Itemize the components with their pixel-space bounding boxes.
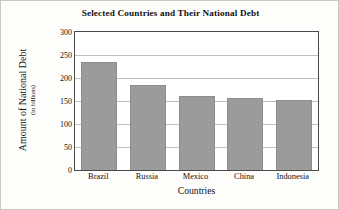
chart-title: Selected Countries and Their National De… xyxy=(1,8,339,18)
x-axis-tick-labels: BrazilRussiaMexicoChinaIndonesia xyxy=(74,172,319,186)
x-axis-title: Countries xyxy=(74,185,319,196)
bar-russia xyxy=(130,85,166,170)
x-axis-tick-label: China xyxy=(220,172,269,181)
x-axis-tick-label: Mexico xyxy=(171,172,220,181)
y-axis-tick-label: 200 xyxy=(46,74,72,83)
y-axis-title-units: (in billions) xyxy=(29,85,36,115)
y-axis-tick-label: 50 xyxy=(46,143,72,152)
plot-area xyxy=(74,31,319,171)
x-axis-tick-label: Russia xyxy=(123,172,172,181)
bar-mexico xyxy=(179,96,215,170)
y-axis-tick-label: 250 xyxy=(46,51,72,60)
y-axis-tick-labels: 050100150200250300 xyxy=(44,31,72,171)
bar-brazil xyxy=(81,62,117,170)
bar-indonesia xyxy=(276,100,312,170)
chart-figure: Selected Countries and Their National De… xyxy=(0,0,339,210)
y-axis-title: Amount of National Debt (in billions) xyxy=(10,25,44,175)
y-axis-title-main: Amount of National Debt xyxy=(18,49,29,151)
plot-inner xyxy=(75,32,318,170)
y-axis-tick-label: 150 xyxy=(46,97,72,106)
gridline xyxy=(75,55,318,56)
x-axis-tick-label: Indonesia xyxy=(268,172,317,181)
y-axis-tick-label: 300 xyxy=(46,28,72,37)
y-axis-tick-label: 100 xyxy=(46,120,72,129)
bar-china xyxy=(227,98,263,170)
x-axis-tick-label: Brazil xyxy=(74,172,123,181)
y-axis-tick-label: 0 xyxy=(46,166,72,175)
